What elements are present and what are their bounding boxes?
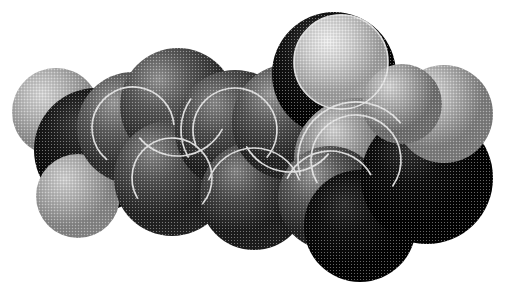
- molecule-canvas: [0, 0, 505, 288]
- molecule-figure: Grayscale halftone space-filling molecul…: [0, 0, 505, 288]
